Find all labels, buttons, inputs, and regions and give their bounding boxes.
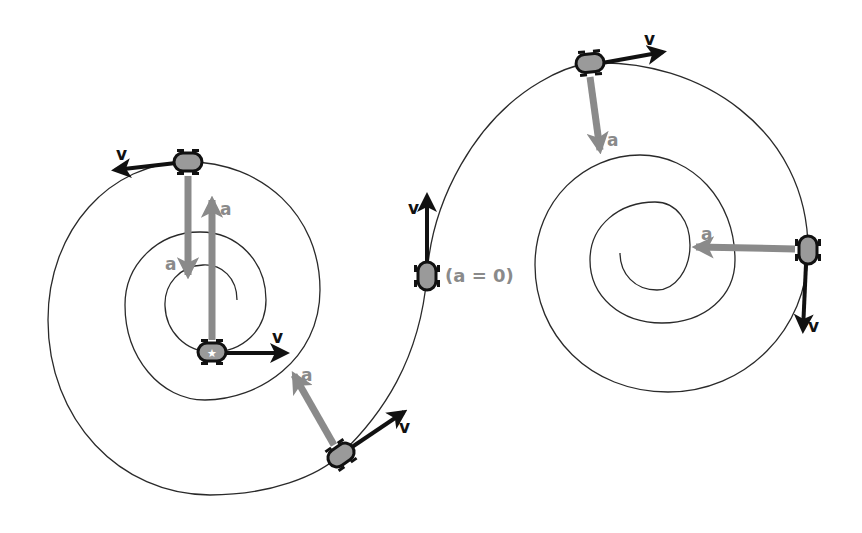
car-icon <box>795 236 821 264</box>
diagram-canvas: v a ★ v a v a v (a = 0) v a v a <box>0 0 862 533</box>
acceleration-arrow <box>696 247 795 249</box>
car-icon <box>174 149 202 175</box>
acceleration-arrow <box>590 77 600 150</box>
acceleration-label: a <box>165 254 176 274</box>
velocity-label: v <box>116 144 127 164</box>
car-right-side: v a <box>696 224 821 336</box>
acceleration-label: a <box>701 224 712 244</box>
car-inflection: v (a = 0) <box>408 196 514 290</box>
acceleration-label: a <box>301 365 312 385</box>
acceleration-label: a <box>220 199 231 219</box>
velocity-label: v <box>808 316 819 336</box>
velocity-label: v <box>644 29 655 49</box>
spiral-motion-diagram: v a ★ v a v a v (a = 0) v a v a <box>0 0 862 533</box>
velocity-label: v <box>272 327 283 347</box>
car-left-top: v a <box>115 144 202 275</box>
car-left-bottom: v a <box>294 365 410 474</box>
star-icon: ★ <box>207 347 217 360</box>
car-icon <box>322 436 360 473</box>
velocity-arrow <box>803 264 806 330</box>
velocity-arrow <box>352 412 404 447</box>
velocity-arrow <box>602 52 663 63</box>
car-icon <box>414 262 440 290</box>
car-right-top: v a <box>575 29 663 150</box>
car-icon <box>575 49 605 77</box>
velocity-label: v <box>399 417 410 437</box>
car-left-center: ★ v a <box>198 199 286 365</box>
zero-acceleration-label: (a = 0) <box>445 265 514 286</box>
acceleration-label: a <box>607 130 618 150</box>
acceleration-arrow <box>294 375 334 445</box>
velocity-label: v <box>408 198 419 218</box>
